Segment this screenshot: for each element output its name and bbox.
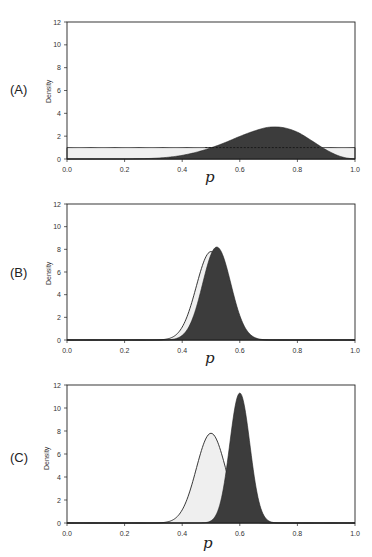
plot-frame — [67, 22, 355, 159]
x-tick-label: 0.0 — [62, 530, 72, 537]
y-tick-label: 6 — [57, 451, 61, 458]
y-tick-label: 12 — [53, 19, 61, 26]
x-tick-label: 0.6 — [235, 166, 245, 173]
x-tick-label: 0.6 — [235, 530, 245, 537]
panel-c: (C) Density 0246810120.00.20.40.60.81.0 … — [0, 370, 372, 557]
y-tick-label: 2 — [57, 314, 61, 321]
x-tick-label: 0.0 — [62, 166, 72, 173]
y-tick-label: 2 — [57, 133, 61, 140]
prior-curve — [67, 433, 355, 523]
y-tick-label: 4 — [57, 110, 61, 117]
y-tick-label: 6 — [57, 269, 61, 276]
x-tick-label: 0.4 — [177, 347, 187, 354]
y-tick-label: 6 — [57, 87, 61, 94]
x-axis-label: p — [203, 534, 213, 552]
x-tick-label: 0.2 — [120, 530, 130, 537]
y-tick-label: 0 — [57, 337, 61, 344]
x-tick-label: 0.8 — [293, 166, 303, 173]
x-tick-label: 0.6 — [235, 347, 245, 354]
plot-area: 0246810120.00.20.40.60.81.0 — [0, 370, 372, 557]
plot-area: 0246810120.00.20.40.60.81.0 — [0, 185, 372, 370]
y-tick-label: 4 — [57, 291, 61, 298]
panel-b: (B) Density 0246810120.00.20.40.60.81.0 … — [0, 185, 372, 370]
x-axis-label: p — [205, 349, 215, 367]
plot-area: 0246810120.00.20.40.60.81.0 — [0, 0, 372, 185]
x-tick-label: 0.8 — [293, 530, 303, 537]
x-tick-label: 1.0 — [350, 347, 360, 354]
x-tick-label: 0.2 — [120, 166, 130, 173]
x-tick-label: 0.4 — [177, 166, 187, 173]
y-tick-label: 10 — [53, 41, 61, 48]
panel-a: (A) Density 0246810120.00.20.40.60.81.0 … — [0, 0, 372, 185]
y-tick-label: 2 — [57, 497, 61, 504]
x-axis-label: p — [205, 168, 215, 186]
x-tick-label: 1.0 — [350, 166, 360, 173]
y-tick-label: 8 — [57, 428, 61, 435]
x-tick-label: 0.4 — [177, 530, 187, 537]
y-tick-label: 12 — [53, 382, 61, 389]
y-tick-label: 8 — [57, 64, 61, 71]
y-tick-label: 8 — [57, 246, 61, 253]
y-tick-label: 12 — [53, 201, 61, 208]
x-tick-label: 0.2 — [120, 347, 130, 354]
y-tick-label: 10 — [53, 405, 61, 412]
y-tick-label: 10 — [53, 223, 61, 230]
y-tick-label: 0 — [57, 156, 61, 163]
posterior-curve — [67, 247, 355, 340]
x-tick-label: 1.0 — [350, 530, 360, 537]
x-tick-label: 0.0 — [62, 347, 72, 354]
y-tick-label: 4 — [57, 474, 61, 481]
y-tick-label: 0 — [57, 520, 61, 527]
x-tick-label: 0.8 — [293, 347, 303, 354]
